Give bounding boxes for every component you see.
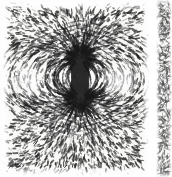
panel-gutter bbox=[149, 0, 156, 177]
adjacent-figure-sliver-panel bbox=[156, 0, 172, 177]
figure-root: iron filings aligned in the magnetic fie… bbox=[0, 0, 172, 177]
iron-filings-main-panel bbox=[3, 2, 149, 176]
side-filings-layer bbox=[156, 0, 172, 177]
figure-title: iron filings aligned in the magnetic fie… bbox=[0, 21, 1, 22]
magnet-body-layer bbox=[3, 2, 149, 176]
